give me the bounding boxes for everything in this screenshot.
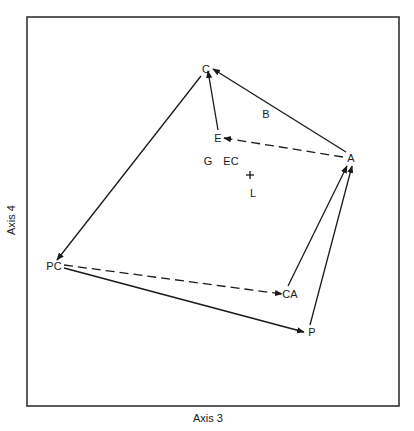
point-label-p: P bbox=[308, 326, 315, 338]
points-layer: CBEAGECLPCCAP bbox=[46, 63, 355, 338]
x-axis-label: Axis 3 bbox=[193, 412, 223, 424]
centroid-marker bbox=[246, 171, 254, 179]
plot-frame bbox=[27, 17, 399, 406]
point-label-ca: CA bbox=[282, 288, 298, 300]
point-label-ec: EC bbox=[223, 155, 238, 167]
arrow-pc-to-ca bbox=[64, 265, 282, 294]
y-axis-label: Axis 4 bbox=[5, 205, 17, 235]
arrow-ca-to-a bbox=[288, 166, 347, 286]
point-label-pc: PC bbox=[46, 260, 61, 272]
point-label-e: E bbox=[214, 132, 221, 144]
ordination-plot: CBEAGECLPCCAP Axis 3 Axis 4 bbox=[0, 0, 414, 431]
point-label-l: L bbox=[250, 187, 256, 199]
point-label-a: A bbox=[347, 152, 355, 164]
arrow-pc-to-p bbox=[64, 268, 304, 332]
point-label-c: C bbox=[202, 63, 210, 75]
arrow-c-to-pc bbox=[57, 76, 201, 260]
arrow-a-to-e bbox=[224, 138, 343, 157]
arrow-p-to-a bbox=[310, 166, 352, 325]
point-label-b: B bbox=[262, 108, 269, 120]
edges-layer bbox=[57, 69, 352, 332]
point-label-g: G bbox=[204, 155, 213, 167]
arrow-e-to-c bbox=[208, 71, 218, 130]
arrow-a-to-c bbox=[213, 69, 346, 152]
